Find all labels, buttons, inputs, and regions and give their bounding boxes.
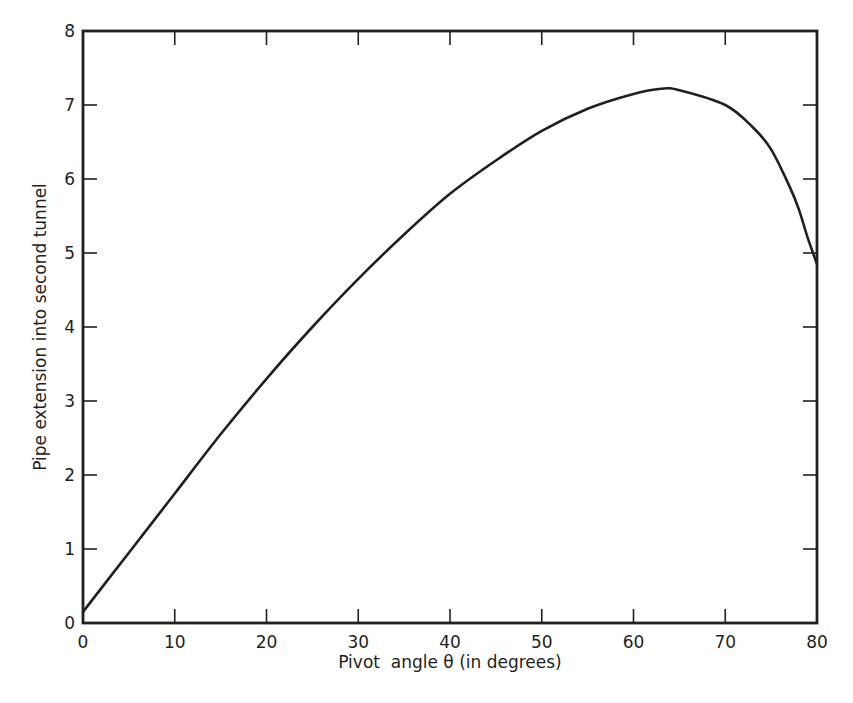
x-tick-label: 60	[623, 632, 645, 652]
y-axis-label: Pipe extension into second tunnel	[30, 183, 50, 471]
y-tick-label: 0	[64, 613, 75, 633]
x-axis-label: Pivot angle θ (in degrees)	[338, 652, 562, 672]
data-line	[83, 88, 817, 612]
y-tick-label: 3	[64, 391, 75, 411]
y-tick-label: 1	[64, 539, 75, 559]
x-tick-label: 50	[531, 632, 553, 652]
y-tick-label: 2	[64, 465, 75, 485]
plot-frame	[83, 31, 817, 623]
x-tick-label: 20	[256, 632, 278, 652]
y-tick-label: 4	[64, 317, 75, 337]
x-axis-ticks: 01020304050607080	[78, 31, 828, 652]
x-tick-label: 70	[714, 632, 736, 652]
x-tick-label: 80	[806, 632, 828, 652]
y-axis-ticks: 012345678	[64, 21, 817, 633]
y-tick-label: 6	[64, 169, 75, 189]
x-tick-label: 40	[439, 632, 461, 652]
y-tick-label: 7	[64, 95, 75, 115]
x-tick-label: 30	[347, 632, 369, 652]
y-tick-label: 5	[64, 243, 75, 263]
x-tick-label: 10	[164, 632, 186, 652]
y-tick-label: 8	[64, 21, 75, 41]
x-tick-label: 0	[78, 632, 89, 652]
line-chart: 01020304050607080 012345678 Pivot angle …	[0, 0, 853, 703]
